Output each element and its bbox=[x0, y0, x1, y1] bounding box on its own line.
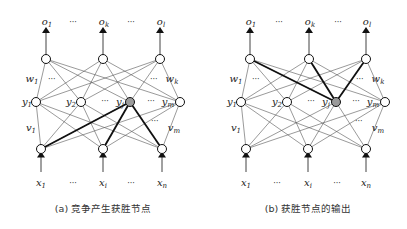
output-label: ··· bbox=[275, 18, 283, 27]
hidden-node bbox=[381, 98, 390, 107]
weight-label-vm: vm bbox=[372, 122, 385, 135]
winner-connections bbox=[250, 59, 366, 102]
output-label: ol bbox=[157, 16, 165, 29]
ellipsis: ··· bbox=[252, 75, 260, 84]
winner-node bbox=[126, 98, 135, 107]
weight-label-w1: w1 bbox=[25, 73, 38, 86]
ellipsis: ··· bbox=[356, 75, 364, 84]
weight-label-v1: v1 bbox=[231, 122, 241, 135]
output-node bbox=[305, 55, 314, 64]
hidden-label: ··· bbox=[352, 97, 360, 106]
output-label: o1 bbox=[42, 16, 53, 29]
hidden-node bbox=[32, 98, 41, 107]
output-node bbox=[362, 55, 371, 64]
ellipsis: ··· bbox=[151, 117, 159, 126]
hidden-label: y1 bbox=[21, 96, 32, 109]
input-label: ··· bbox=[273, 179, 281, 188]
ellipsis: ··· bbox=[150, 75, 158, 84]
input-node bbox=[304, 145, 313, 154]
output-node bbox=[99, 55, 108, 64]
hidden-label: y2 bbox=[65, 96, 77, 109]
hidden-node bbox=[77, 98, 86, 107]
output-label: ··· bbox=[127, 18, 135, 27]
panel-caption: (b) 获胜节点的输出 bbox=[265, 203, 351, 214]
hidden-node bbox=[237, 98, 246, 107]
input-label: ··· bbox=[333, 179, 341, 188]
output-label: ok bbox=[99, 16, 109, 29]
panel-caption: (a) 竞争产生获胜节点 bbox=[55, 203, 151, 214]
weight-label-wk: wk bbox=[166, 73, 179, 86]
weight-label-w1: w1 bbox=[229, 73, 242, 86]
output-node bbox=[246, 55, 255, 64]
input-node bbox=[158, 145, 167, 154]
input-node bbox=[37, 145, 46, 154]
hidden-node bbox=[283, 98, 292, 107]
input-label: xi bbox=[304, 177, 312, 190]
input-node bbox=[362, 145, 371, 154]
hidden-node bbox=[176, 98, 185, 107]
winner-node bbox=[332, 98, 341, 107]
output-label: o1 bbox=[246, 16, 257, 29]
input-label: x1 bbox=[241, 177, 251, 190]
ellipsis: ··· bbox=[355, 117, 363, 126]
weight-label-v1: v1 bbox=[26, 122, 36, 135]
hidden-label: ··· bbox=[307, 97, 315, 106]
input-node bbox=[99, 145, 108, 154]
hidden-label: ··· bbox=[147, 97, 155, 106]
output-label: ··· bbox=[334, 18, 342, 27]
input-label: xi bbox=[99, 177, 107, 190]
input-label: xn bbox=[157, 177, 168, 190]
input-node bbox=[242, 145, 251, 154]
input-label: ··· bbox=[127, 179, 135, 188]
output-label: ok bbox=[305, 16, 315, 29]
input-label: ··· bbox=[69, 179, 77, 188]
panel-b-winner-output: o1···ok···olx1···xi···xny1y2···yj···ymw1… bbox=[226, 16, 390, 214]
input-label: xn bbox=[361, 177, 372, 190]
weight-label-wk: wk bbox=[372, 73, 385, 86]
hidden-label: y2 bbox=[271, 96, 283, 109]
output-label: ··· bbox=[69, 18, 77, 27]
hidden-label: ··· bbox=[101, 97, 109, 106]
weight-label-vm: vm bbox=[168, 122, 181, 135]
ellipsis: ··· bbox=[48, 75, 56, 84]
panel-a-competition: o1···ok···olx1···xi···xny1y2···yj···ymw1… bbox=[21, 16, 185, 214]
output-node bbox=[156, 55, 165, 64]
input-label: x1 bbox=[36, 177, 46, 190]
output-label: ol bbox=[363, 16, 371, 29]
output-node bbox=[42, 55, 51, 64]
hidden-label: y1 bbox=[226, 96, 237, 109]
competitive-network-diagram: o1···ok···olx1···xi···xny1y2···yj···ymw1… bbox=[0, 0, 407, 229]
